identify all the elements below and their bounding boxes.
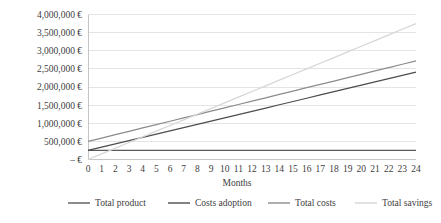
y-axis-tick-label: 2,500,000 € bbox=[37, 64, 82, 74]
legend-label-total-costs: Total costs bbox=[295, 198, 336, 208]
legend: Total productCosts adoptionTotal costsTo… bbox=[68, 198, 433, 208]
y-axis-tick-label: – € bbox=[69, 155, 82, 165]
x-axis-tick-label: 6 bbox=[168, 164, 173, 174]
x-axis-tick-label: 21 bbox=[370, 164, 380, 174]
y-axis-tick-label: 4,000,000 € bbox=[37, 10, 82, 20]
series-line-total-savings bbox=[88, 24, 416, 160]
series-line-total-costs bbox=[88, 61, 416, 141]
x-axis-tick-label: 12 bbox=[247, 164, 257, 174]
x-axis-tick-label: 3 bbox=[127, 164, 132, 174]
x-axis-tick-label: 22 bbox=[384, 164, 394, 174]
legend-label-costs-adoption: Costs adoption bbox=[195, 198, 252, 208]
y-axis-tick-label: 1,500,000 € bbox=[37, 101, 82, 111]
y-axis-tick-label: 2,000,000 € bbox=[37, 82, 82, 92]
x-axis-tick-label: 13 bbox=[261, 164, 271, 174]
x-axis-tick-label: 0 bbox=[86, 164, 91, 174]
x-axis-tick-label: 5 bbox=[154, 164, 159, 174]
legend-label-total-product: Total product bbox=[95, 198, 146, 208]
x-axis-tick-label: 18 bbox=[329, 164, 339, 174]
line-chart: – €500,000 €1,000,000 €1,500,000 €2,000,… bbox=[0, 0, 441, 223]
x-axis-tick-label: 4 bbox=[140, 164, 145, 174]
x-axis-tick-label: 15 bbox=[288, 164, 298, 174]
y-axis-tick-label: 3,500,000 € bbox=[37, 28, 82, 38]
gridlines-group bbox=[88, 15, 416, 160]
y-axis-labels-group: – €500,000 €1,000,000 €1,500,000 €2,000,… bbox=[37, 10, 82, 165]
y-axis-tick-label: 3,000,000 € bbox=[37, 46, 82, 56]
x-axis-tick-label: 11 bbox=[234, 164, 243, 174]
x-axis-title: Months bbox=[222, 178, 251, 188]
chart-container: – €500,000 €1,000,000 €1,500,000 €2,000,… bbox=[0, 0, 441, 223]
x-axis-tick-label: 19 bbox=[343, 164, 353, 174]
x-axis-tick-label: 2 bbox=[113, 164, 118, 174]
x-axis-tick-label: 17 bbox=[316, 164, 326, 174]
x-axis-labels-group: 0123456789101112131415161718192021222324 bbox=[86, 164, 421, 174]
x-axis-tick-label: 24 bbox=[411, 164, 421, 174]
y-axis-tick-label: 1,000,000 € bbox=[37, 119, 82, 129]
x-axis-tick-label: 20 bbox=[357, 164, 367, 174]
x-axis-tick-label: 23 bbox=[398, 164, 408, 174]
legend-label-total-savings: Total savings bbox=[382, 198, 433, 208]
x-axis-tick-label: 1 bbox=[99, 164, 104, 174]
x-axis-tick-label: 9 bbox=[209, 164, 214, 174]
plot-lines-group bbox=[88, 24, 416, 160]
x-axis-tick-label: 7 bbox=[181, 164, 186, 174]
y-axis-tick-label: 500,000 € bbox=[44, 137, 82, 147]
x-axis-tick-label: 10 bbox=[220, 164, 230, 174]
x-axis-tick-label: 14 bbox=[275, 164, 285, 174]
x-axis-tick-label: 8 bbox=[195, 164, 200, 174]
x-axis-tick-label: 16 bbox=[302, 164, 312, 174]
